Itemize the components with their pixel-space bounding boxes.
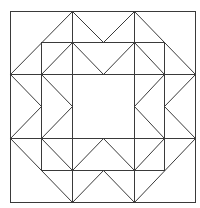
quilt-pattern-diagram <box>0 0 200 208</box>
top-zigzag-inner <box>42 43 165 75</box>
pattern-lines <box>11 12 196 203</box>
outer-square <box>11 12 196 203</box>
left-zigzag-inner <box>42 75 73 139</box>
bottom-zigzag-outer <box>11 139 196 203</box>
right-zigzag-outer <box>165 75 196 139</box>
right-zigzag-inner <box>135 75 165 139</box>
inner-square <box>42 43 165 171</box>
bottom-zigzag-inner <box>42 139 165 171</box>
left-zigzag-outer <box>11 75 42 139</box>
